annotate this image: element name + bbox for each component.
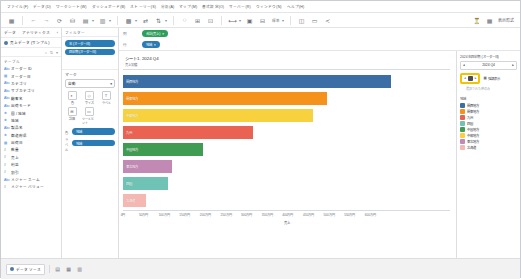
fix-axes-icon[interactable]: ⟷ <box>228 16 237 25</box>
data-field[interactable]: ▤オーダー日 <box>1 72 61 79</box>
filters-shelf[interactable]: 年 (オーダー日)四半期 (オーダー日) <box>62 37 118 70</box>
presentation-mode-icon[interactable]: ▣ <box>245 16 254 25</box>
quarter-next-icon[interactable]: ▸ <box>512 63 514 67</box>
datasource-tab[interactable]: データ ソース <box>6 264 45 275</box>
tableau-logo-icon[interactable]: ▦ <box>7 16 16 25</box>
forward-icon[interactable]: → <box>42 16 51 25</box>
data-field[interactable]: #利益 <box>1 161 61 168</box>
new-worksheet-icon[interactable]: ▤ <box>54 266 61 273</box>
new-story-icon[interactable]: ▥ <box>76 266 83 273</box>
detail-button[interactable]: ⊞詳細 <box>65 107 79 125</box>
bar-row[interactable]: 関西地方 <box>123 73 450 90</box>
quarter-prev-icon[interactable]: ◂ <box>463 63 465 67</box>
menu-item[interactable]: ウィンドウ(N) <box>256 4 282 9</box>
data-field[interactable]: Abcメジャー ネーム <box>1 176 61 183</box>
quarter-select[interactable]: ◂ 2024 Q4 ▸ <box>460 61 517 70</box>
fit-chevron-icon[interactable]: ▾ <box>282 18 284 23</box>
tab-data[interactable]: データ <box>4 30 16 35</box>
mark-pill[interactable]: 地域 <box>72 140 115 147</box>
data-field[interactable]: Abc出荷モード <box>1 102 61 109</box>
filter-funnel-icon[interactable]: ⏳ <box>472 16 481 25</box>
fit-icon[interactable]: ⊟ <box>258 16 267 25</box>
highlight-selector[interactable]: ◂ ▸ <box>460 73 480 84</box>
columns-shelf[interactable]: 列 合計(売上)▾ <box>119 28 520 39</box>
show-me-icon[interactable]: ◫ <box>297 16 306 25</box>
new-dashboard-icon[interactable]: ▦ <box>65 266 72 273</box>
color-button[interactable]: ◐色 <box>65 91 79 105</box>
menu-item[interactable]: ワークシート(W) <box>56 4 87 9</box>
new-datasource-icon[interactable]: ⛁ <box>68 16 77 25</box>
shelf-pill[interactable]: 地域▾ <box>142 41 160 48</box>
duplicate-sheet-icon[interactable]: ▥ <box>98 16 107 25</box>
sort-fields-icon[interactable]: ⇅ <box>50 50 53 55</box>
data-field[interactable]: #割引 <box>1 168 61 175</box>
x-axis[interactable]: 0円50万円100万円150万円200万円250万円300万円350万円400万… <box>123 210 450 220</box>
showme-label[interactable]: 表示形式 <box>498 17 514 23</box>
bar[interactable]: 四国 <box>123 177 168 191</box>
fit-selector[interactable]: 標準 <box>271 16 280 25</box>
sort-chevron-icon[interactable]: ▾ <box>165 18 167 23</box>
bar-row[interactable]: 中部地方 <box>123 107 450 124</box>
bar-row[interactable]: 北海道 <box>123 192 450 209</box>
tab-analytics[interactable]: アナリティクス <box>22 30 50 35</box>
share-icon[interactable]: ≺ <box>323 16 332 25</box>
data-field[interactable]: #売上 <box>1 154 61 161</box>
shelf-pill[interactable]: 合計(売上)▾ <box>142 30 168 37</box>
new-worksheet-icon[interactable]: ▤ <box>81 16 90 25</box>
highlight-icon[interactable]: ◌ <box>180 16 189 25</box>
menu-item[interactable]: ダッシュボード(B) <box>92 4 126 9</box>
clear-chevron-icon[interactable]: ▾ <box>135 18 137 23</box>
showme-panel-icon[interactable]: ▦ <box>485 16 494 25</box>
bar-row[interactable]: 四国 <box>123 175 450 192</box>
more-options-icon[interactable]: ▾ <box>56 50 58 55</box>
rows-shelf[interactable]: 行 地域▾ <box>119 39 520 50</box>
data-field[interactable]: Abc顧客名 <box>1 95 61 102</box>
data-field[interactable]: ▤出荷日 <box>1 139 61 146</box>
menu-item[interactable]: サーバー(R) <box>229 4 251 9</box>
bar[interactable]: 中部地方 <box>123 109 313 123</box>
bar-row[interactable]: 東北地方 <box>123 158 450 175</box>
data-field[interactable]: Abcカテゴリ <box>1 80 61 87</box>
sort-ascending-icon[interactable]: ⇅ <box>154 16 163 25</box>
tooltip-button[interactable]: ▭ツールヒント <box>82 107 96 125</box>
data-field[interactable]: Abcサブカテゴリ <box>1 87 61 94</box>
chevron-down-icon[interactable]: ▾ <box>154 43 156 47</box>
data-field[interactable]: Abc製品名 <box>1 124 61 131</box>
datasource-row[interactable]: 売上データ (サンプル) <box>1 38 61 48</box>
bar[interactable]: 東北地方 <box>123 160 172 174</box>
clear-sheet-icon[interactable]: ▩ <box>124 16 133 25</box>
highlight-label-group[interactable]: ▦ 強調表示 <box>483 76 499 81</box>
menu-item[interactable]: データ(D) <box>33 4 51 9</box>
label-button[interactable]: Tラベル <box>99 91 113 105</box>
back-icon[interactable]: ← <box>29 16 38 25</box>
chevron-down-icon[interactable]: ▾ <box>162 32 164 36</box>
search-icon[interactable]: ⌕ <box>45 50 47 55</box>
mark-pill[interactable]: 地域 <box>72 128 115 135</box>
bar[interactable]: 関東地方 <box>123 92 327 106</box>
bar-row[interactable]: 中国地方 <box>123 141 450 158</box>
data-field[interactable]: #メジャー バリュー <box>1 183 61 190</box>
bar[interactable]: 九州 <box>123 126 253 140</box>
axes-chevron-icon[interactable]: ▾ <box>239 18 241 23</box>
data-field[interactable]: ⊕地域 <box>1 117 61 124</box>
menu-item[interactable]: 書式設定(O) <box>202 4 224 9</box>
legend-item[interactable]: 北海道 <box>460 145 517 151</box>
bar[interactable]: 関西地方 <box>123 75 391 89</box>
device-preview-icon[interactable]: ▭ <box>310 16 319 25</box>
bar-row[interactable]: 九州 <box>123 124 450 141</box>
filter-pill[interactable]: 四半期 (オーダー日) <box>65 49 115 56</box>
duplicate-chevron-icon[interactable]: ▾ <box>109 18 111 23</box>
menu-item[interactable]: マップ(M) <box>179 4 197 9</box>
show-labels-icon[interactable]: ⊡ <box>206 16 215 25</box>
swap-rows-cols-icon[interactable]: ⇄ <box>141 16 150 25</box>
menu-item[interactable]: ストーリー(S) <box>130 4 156 9</box>
save-icon[interactable]: ⟳ <box>55 16 64 25</box>
bar[interactable]: 中国地方 <box>123 143 203 157</box>
data-field[interactable]: Abcオーダー ID <box>1 65 61 72</box>
size-button[interactable]: ◇サイズ <box>82 91 96 105</box>
highlight-right-icon[interactable]: ▸ <box>475 76 477 80</box>
new-worksheet-chevron-icon[interactable]: ▾ <box>92 18 94 23</box>
menu-item[interactable]: ヘルプ(H) <box>287 4 305 9</box>
data-pane-collapse-icon[interactable]: ‹ <box>57 31 58 35</box>
bar-row[interactable]: 関東地方 <box>123 90 450 107</box>
